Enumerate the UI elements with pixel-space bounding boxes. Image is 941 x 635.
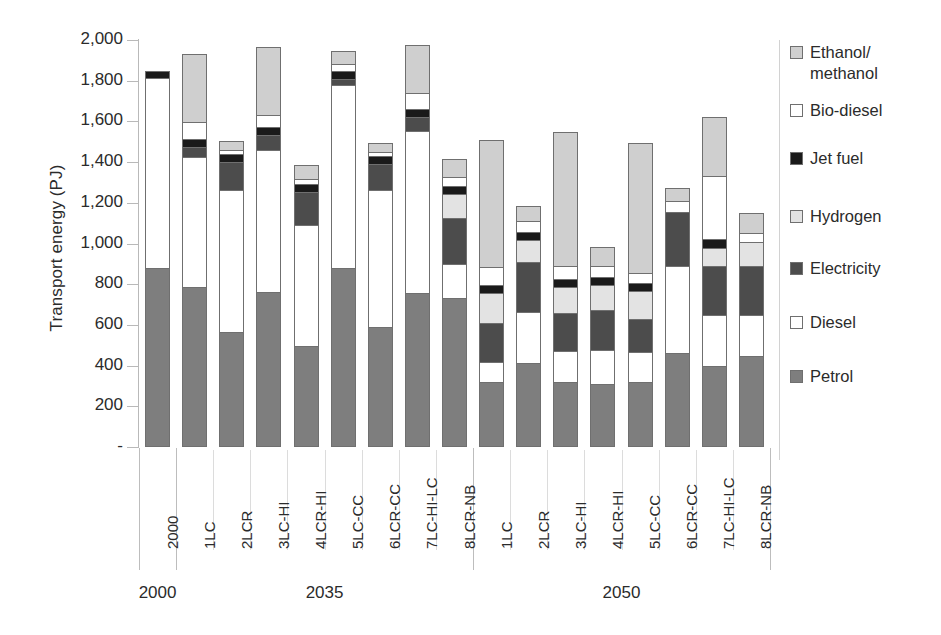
bar-segment-jet-fuel	[182, 139, 207, 147]
legend-item-electricity[interactable]: Electricity	[790, 258, 881, 279]
bar-segment-petrol	[182, 287, 207, 447]
legend-item-hydrogen[interactable]: Hydrogen	[790, 206, 882, 227]
x-axis-label-2000-2000: 2000	[164, 516, 181, 549]
y-axis-tick-label: 200	[53, 395, 123, 415]
bar-segment-electricity	[405, 117, 430, 130]
bar-segment-petrol	[739, 356, 764, 447]
bar-2050-1LC[interactable]	[479, 140, 504, 447]
bar-segment-hydrogen	[628, 291, 653, 318]
y-axis-tick-label: 1,000	[53, 233, 123, 253]
bar-segment-hydrogen	[739, 242, 764, 266]
y-axis-tick-label: 600	[53, 314, 123, 334]
bar-segment-ethanol-methanol	[479, 140, 504, 267]
bar-segment-petrol	[553, 382, 578, 447]
bar-segment-electricity	[739, 266, 764, 315]
bar-segment-jet-fuel	[702, 239, 727, 247]
bar-segment-diesel	[219, 190, 244, 332]
bar-segment-petrol	[479, 382, 504, 447]
bar-segment-hydrogen	[553, 287, 578, 312]
bar-segment-electricity	[294, 192, 319, 226]
legend-label-bio-diesel: Bio-diesel	[810, 100, 882, 121]
bar-segment-electricity	[702, 266, 727, 315]
bar-2035-2LCR[interactable]	[219, 141, 244, 447]
legend-item-ethanol-methanol[interactable]: Ethanol/ methanol	[790, 42, 878, 84]
bar-segment-petrol	[331, 268, 356, 447]
bar-segment-jet-fuel	[628, 283, 653, 291]
legend-item-diesel[interactable]: Diesel	[790, 312, 856, 333]
bar-2000-2000[interactable]	[145, 71, 170, 447]
bar-2035-1LC[interactable]	[182, 54, 207, 447]
bar-segment-bio-diesel	[479, 267, 504, 285]
bar-segment-jet-fuel	[479, 285, 504, 293]
x-axis-label-2035-4LCR-HI: 4LCR-HI	[312, 491, 329, 549]
bar-segment-bio-diesel	[739, 233, 764, 241]
bar-segment-diesel	[368, 190, 393, 327]
bar-segment-electricity	[628, 319, 653, 353]
legend-label-jet-fuel: Jet fuel	[810, 148, 863, 169]
legend-item-jet-fuel[interactable]: Jet fuel	[790, 148, 863, 169]
bar-segment-jet-fuel	[145, 71, 170, 78]
bar-segment-hydrogen	[442, 194, 467, 218]
bar-segment-electricity	[590, 310, 615, 351]
y-axis-tick	[127, 40, 138, 41]
x-axis-label-2050-4LCR-HI: 4LCR-HI	[609, 491, 626, 549]
bar-2050-3LC-HI[interactable]	[553, 132, 578, 447]
bar-segment-diesel	[256, 150, 281, 292]
x-axis-group-label-2000: 2000	[98, 583, 218, 603]
bar-segment-petrol	[294, 346, 319, 447]
bar-segment-ethanol-methanol	[405, 45, 430, 93]
bar-segment-ethanol-methanol	[368, 143, 393, 152]
bar-2050-8LCR-NB[interactable]	[739, 213, 764, 447]
bar-segment-jet-fuel	[256, 127, 281, 135]
x-axis-label-2050-2LCR: 2LCR	[535, 511, 552, 549]
y-axis-tick	[127, 244, 138, 245]
bar-segment-diesel	[294, 225, 319, 346]
bar-segment-petrol	[516, 363, 541, 447]
chart-root: Transport energy (PJ) -2004006008001,000…	[0, 0, 941, 635]
legend-item-petrol[interactable]: Petrol	[790, 366, 853, 387]
bar-2035-5LC-CC[interactable]	[331, 51, 356, 447]
y-axis-tick-label: 1,800	[53, 70, 123, 90]
bar-2050-7LC-HI-LC[interactable]	[702, 117, 727, 447]
bar-2035-3LC-HI[interactable]	[256, 47, 281, 447]
bar-segment-hydrogen	[479, 293, 504, 323]
bar-segment-petrol	[442, 298, 467, 447]
x-axis-label-2050-1LC: 1LC	[498, 521, 515, 549]
x-axis-label-2050-5LC-CC: 5LC-CC	[646, 495, 663, 549]
y-axis-tick	[127, 203, 138, 204]
legend-label-ethanol-methanol: Ethanol/ methanol	[810, 42, 878, 84]
x-axis-label-2035-5LC-CC: 5LC-CC	[349, 495, 366, 549]
bar-segment-ethanol-methanol	[739, 213, 764, 233]
y-axis-tick	[127, 366, 138, 367]
bar-2035-6LCR-CC[interactable]	[368, 143, 393, 447]
y-axis-tick-label: 2,000	[53, 29, 123, 49]
bar-2035-8LCR-NB[interactable]	[442, 159, 467, 447]
bar-segment-petrol	[256, 292, 281, 447]
x-axis-label-2035-1LC: 1LC	[201, 521, 218, 549]
bar-segment-ethanol-methanol	[331, 51, 356, 64]
bar-segment-diesel	[182, 157, 207, 287]
bar-segment-ethanol-methanol	[294, 165, 319, 179]
legend-swatch-hydrogen-icon	[790, 210, 803, 223]
bar-2035-4LCR-HI[interactable]	[294, 165, 319, 447]
bar-2050-2LCR[interactable]	[516, 206, 541, 447]
bar-segment-jet-fuel	[405, 109, 430, 117]
x-axis-label-2035-7LC-HI-LC: 7LC-HI-LC	[423, 477, 440, 549]
bar-segment-petrol	[665, 353, 690, 447]
bar-2050-4LCR-HI[interactable]	[590, 247, 615, 447]
y-axis-tick	[127, 81, 138, 82]
bar-segment-ethanol-methanol	[182, 54, 207, 122]
legend-item-bio-diesel[interactable]: Bio-diesel	[790, 100, 882, 121]
bar-segment-ethanol-methanol	[553, 132, 578, 266]
bar-segment-ethanol-methanol	[256, 47, 281, 115]
bar-2050-5LC-CC[interactable]	[628, 143, 653, 447]
bar-2035-7LC-HI-LC[interactable]	[405, 45, 430, 447]
bar-2050-6LCR-CC[interactable]	[665, 188, 690, 447]
bar-segment-electricity	[516, 262, 541, 312]
bar-segment-ethanol-methanol	[516, 206, 541, 221]
y-axis-tick	[127, 162, 138, 163]
bar-segment-diesel	[442, 264, 467, 299]
y-axis-tick-label: 400	[53, 355, 123, 375]
legend-swatch-jet-fuel-icon	[790, 152, 803, 165]
bar-segment-bio-diesel	[702, 176, 727, 239]
